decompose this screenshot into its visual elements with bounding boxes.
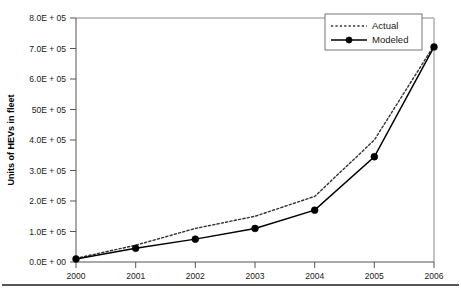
- y-tick-label: 6.0E + 05: [29, 74, 66, 84]
- y-tick-label: 3.0E + 05: [29, 166, 66, 176]
- hev-fleet-line-chart: 0.0E + 00 1.0E + 05 2.0E + 05 3.0E + 05 …: [0, 0, 461, 290]
- chart-legend: Actual Modeled: [325, 14, 422, 50]
- y-tick-label: 4.0E + 05: [29, 135, 66, 145]
- x-tick-label: 2001: [126, 271, 145, 281]
- legend-label-actual: Actual: [372, 20, 398, 31]
- y-tick-label: 50E + 05: [32, 105, 67, 115]
- y-tick-label: 7.0E + 05: [29, 44, 66, 54]
- y-axis-title: Units of HEVs in fleet: [6, 94, 16, 185]
- x-axis-tick-labels: 2000 2001 2002 2003 2004 2005 2006: [67, 271, 444, 281]
- x-tick-label: 2002: [186, 271, 205, 281]
- x-tick-label: 2004: [305, 271, 324, 281]
- data-point-marker: [252, 225, 259, 232]
- y-tick-label: 0.0E + 00: [29, 257, 66, 267]
- data-point-marker: [431, 44, 438, 51]
- x-tick-label: 2005: [365, 271, 384, 281]
- data-point-marker: [311, 207, 318, 214]
- legend-marker-modeled: [346, 37, 352, 43]
- x-tick-label: 2006: [425, 271, 444, 281]
- y-tick-label: 2.0E + 05: [29, 196, 66, 206]
- y-axis-ticks: [70, 18, 76, 262]
- data-point-marker: [73, 256, 80, 263]
- y-tick-label: 8.0E + 05: [29, 13, 66, 23]
- y-axis-tick-labels: 0.0E + 00 1.0E + 05 2.0E + 05 3.0E + 05 …: [29, 13, 66, 267]
- x-tick-label: 2000: [67, 271, 86, 281]
- y-tick-label: 1.0E + 05: [29, 227, 66, 237]
- legend-label-modeled: Modeled: [372, 34, 408, 45]
- chart-figure: 0.0E + 00 1.0E + 05 2.0E + 05 3.0E + 05 …: [0, 0, 461, 290]
- data-point-marker: [371, 153, 378, 160]
- data-point-marker: [192, 236, 199, 243]
- data-point-marker: [132, 245, 139, 252]
- x-axis-ticks: [76, 262, 434, 268]
- x-tick-label: 2003: [246, 271, 265, 281]
